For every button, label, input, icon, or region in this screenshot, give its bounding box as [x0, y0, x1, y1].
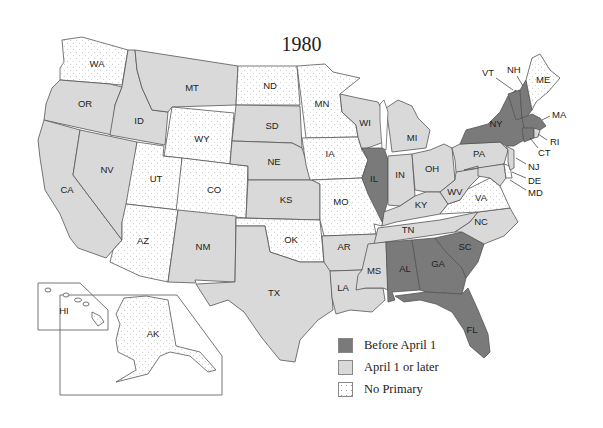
leader-NH [517, 76, 523, 86]
label-NE: NE [267, 156, 280, 167]
state-IA[interactable] [302, 137, 368, 180]
legend-label: April 1 or later [364, 360, 439, 375]
label-WI: WI [359, 117, 371, 128]
label-IL: IL [370, 173, 378, 184]
label-VA: VA [475, 192, 488, 203]
label-CA: CA [60, 184, 74, 195]
label-ME: ME [536, 74, 550, 85]
legend-label: Before April 1 [364, 338, 436, 353]
label-RI: RI [550, 136, 560, 147]
label-NY: NY [489, 118, 503, 129]
label-OK: OK [284, 234, 298, 245]
label-OH: OH [425, 163, 439, 174]
legend-item-april-1-or-later: April 1 or later [338, 356, 439, 378]
label-LA: LA [337, 282, 349, 293]
leader-MA [542, 116, 550, 120]
label-CT: CT [538, 147, 551, 158]
label-NV: NV [100, 164, 114, 175]
label-GA: GA [431, 258, 445, 269]
label-NH: NH [507, 64, 521, 75]
swatch-no-primary [338, 382, 353, 397]
label-AZ: AZ [137, 235, 149, 246]
label-MN: MN [315, 98, 330, 109]
label-VT: VT [482, 67, 494, 78]
label-ND: ND [263, 80, 277, 91]
state-IN[interactable] [388, 154, 415, 206]
label-DE: DE [528, 175, 541, 186]
label-MT: MT [185, 82, 199, 93]
label-MS: MS [367, 265, 381, 276]
label-NJ: NJ [528, 161, 540, 172]
state-MI[interactable] [386, 100, 430, 152]
label-MI: MI [407, 132, 418, 143]
label-HI: HI [59, 305, 69, 316]
state-CT[interactable] [522, 128, 534, 142]
label-AK: AK [147, 328, 160, 339]
label-SC: SC [458, 241, 471, 252]
leader-DE [512, 172, 526, 178]
hawaii-islands[interactable] [45, 288, 104, 326]
leader-CT [530, 138, 538, 148]
legend-item-no-primary: No Primary [338, 378, 439, 400]
leader-VT [496, 78, 513, 90]
label-ID: ID [134, 115, 144, 126]
label-AR: AR [337, 241, 350, 252]
label-IA: IA [326, 148, 336, 159]
label-WV: WV [447, 186, 463, 197]
leader-MD [510, 180, 526, 190]
label-IN: IN [395, 169, 405, 180]
label-PA: PA [473, 148, 486, 159]
legend-label: No Primary [364, 382, 423, 397]
label-KY: KY [415, 199, 428, 210]
legend-item-before-april-1: Before April 1 [338, 334, 439, 356]
label-KS: KS [280, 194, 293, 205]
label-MO: MO [333, 196, 348, 207]
label-FL: FL [466, 324, 477, 335]
label-NM: NM [196, 241, 211, 252]
label-WA: WA [90, 58, 106, 69]
label-CO: CO [207, 184, 221, 195]
label-MA: MA [552, 109, 567, 120]
label-WY: WY [194, 133, 210, 144]
leader-NJ [516, 158, 526, 164]
label-TX: TX [268, 287, 281, 298]
label-SD: SD [265, 120, 278, 131]
swatch-before-april-1 [338, 338, 353, 353]
label-OR: OR [78, 98, 92, 109]
label-AL: AL [399, 263, 411, 274]
legend: Before April 1 April 1 or later No Prima… [338, 334, 439, 400]
state-RI[interactable] [534, 128, 540, 138]
state-AK[interactable] [116, 296, 216, 382]
label-UT: UT [150, 173, 163, 184]
swatch-april-1-or-later [338, 360, 353, 375]
label-MD: MD [528, 187, 543, 198]
leader-RI [538, 134, 547, 140]
label-NC: NC [474, 216, 488, 227]
us-map: WA OR CA ID NV MT WY UT CO AZ NM ND SD N… [0, 0, 603, 428]
label-TN: TN [402, 224, 415, 235]
